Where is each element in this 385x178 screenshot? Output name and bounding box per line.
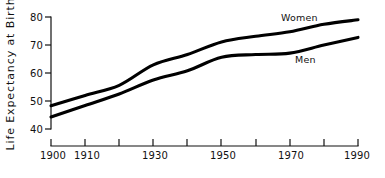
x-tick-label-1990: 1990	[344, 150, 370, 161]
life-expectancy-line-chart: Life Expectancy at Birth 80 70 60 50 40 …	[0, 0, 385, 178]
y-tick-label-50: 50	[30, 96, 43, 107]
y-tick-label-60: 60	[30, 68, 43, 79]
y-tick-label-80: 80	[30, 12, 43, 23]
x-tick-label-1910: 1910	[74, 150, 100, 161]
series-label-women: Women	[281, 12, 318, 23]
x-tick-label-1930: 1930	[142, 150, 168, 161]
y-tick-label-70: 70	[30, 40, 43, 51]
x-tick-label-1950: 1950	[210, 150, 236, 161]
x-tick-label-1900: 1900	[40, 150, 66, 161]
y-axis-title: Life Expectancy at Birth	[4, 0, 17, 151]
chart-page: Life Expectancy at Birth 80 70 60 50 40 …	[0, 0, 385, 178]
series-label-men: Men	[295, 54, 316, 65]
y-tick-label-40: 40	[30, 124, 43, 135]
x-tick-label-1970: 1970	[278, 150, 304, 161]
